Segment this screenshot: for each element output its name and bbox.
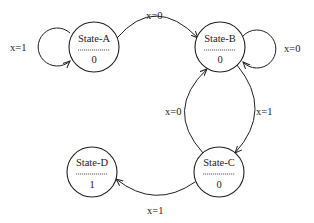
transition-a-b: x=0 bbox=[117, 10, 198, 38]
edge-c-b-arrow bbox=[184, 69, 207, 153]
self-loop-a-arrow bbox=[38, 28, 70, 66]
self-loop-b-arrow bbox=[243, 30, 276, 68]
transition-c-d: x=1 bbox=[116, 179, 195, 216]
edge-b-c-arrow bbox=[235, 65, 255, 153]
edge-c-d-arrow bbox=[116, 179, 195, 195]
state-b-name: State-B bbox=[204, 33, 236, 44]
transition-label-c-d: x=1 bbox=[147, 205, 163, 216]
state-c-name: State-C bbox=[203, 157, 235, 168]
transition-label-b-b: x=0 bbox=[284, 43, 300, 54]
state-diagram: x=1 x=0 x=0 x=0 x=1 x=1 State-A 0 State-… bbox=[0, 0, 314, 223]
transition-b-c: x=1 bbox=[235, 65, 272, 153]
transition-label-a-b: x=0 bbox=[146, 10, 162, 21]
transition-label-a-a: x=1 bbox=[10, 42, 26, 53]
state-b: State-B 0 bbox=[195, 22, 245, 72]
transition-b-b: x=0 bbox=[243, 30, 300, 68]
state-d-output: 1 bbox=[89, 179, 94, 190]
state-b-output: 0 bbox=[217, 54, 222, 65]
state-d-name: State-D bbox=[76, 157, 108, 168]
state-d: State-D 1 bbox=[67, 147, 117, 197]
state-a: State-A 0 bbox=[69, 22, 119, 72]
transition-label-c-b: x=0 bbox=[165, 106, 181, 117]
transition-a-a: x=1 bbox=[10, 28, 70, 66]
state-c-output: 0 bbox=[216, 179, 221, 190]
state-c: State-C 0 bbox=[194, 147, 244, 197]
transition-c-b: x=0 bbox=[165, 69, 207, 153]
state-a-output: 0 bbox=[91, 54, 96, 65]
transition-label-b-c: x=1 bbox=[256, 106, 272, 117]
state-a-name: State-A bbox=[78, 33, 110, 44]
